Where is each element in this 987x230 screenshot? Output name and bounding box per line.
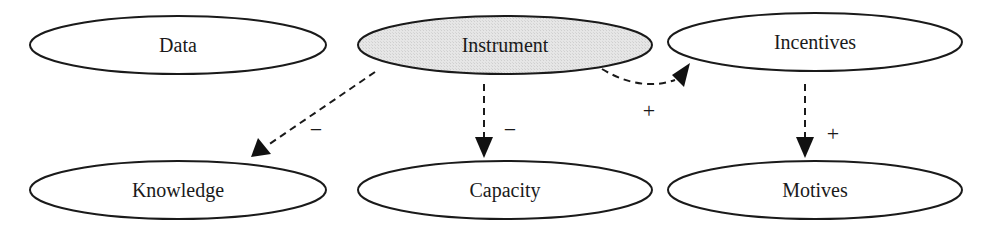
arrowhead-icon [796,137,814,158]
node-data-label: Data [159,34,197,56]
arrowhead-icon [672,63,690,87]
node-instrument: Instrument [358,16,652,74]
edge-instrument-knowledge: − [251,72,375,157]
edge-incentives-motives: + [796,84,839,158]
node-capacity: Capacity [358,161,652,219]
arrowhead-icon [475,137,493,158]
edge-instrument-capacity: − [475,84,516,158]
edge-instrument-incentives: + [602,63,690,123]
node-instrument-label: Instrument [462,34,549,56]
edge-sign-label: − [504,117,516,142]
node-data: Data [30,16,326,74]
node-incentives: Incentives [668,13,962,71]
edge-line [602,69,675,84]
node-motives-label: Motives [782,179,848,201]
edge-sign-label: + [827,121,839,146]
arrowhead-icon [251,138,271,157]
node-motives: Motives [668,161,962,219]
node-capacity-label: Capacity [469,179,540,202]
edge-sign-label: + [643,98,655,123]
node-knowledge: Knowledge [30,161,326,219]
node-incentives-label: Incentives [774,31,856,53]
causal-diagram: Data Instrument Incentives Knowledge Cap… [0,0,987,230]
node-knowledge-label: Knowledge [132,179,224,202]
edge-sign-label: − [310,117,322,142]
